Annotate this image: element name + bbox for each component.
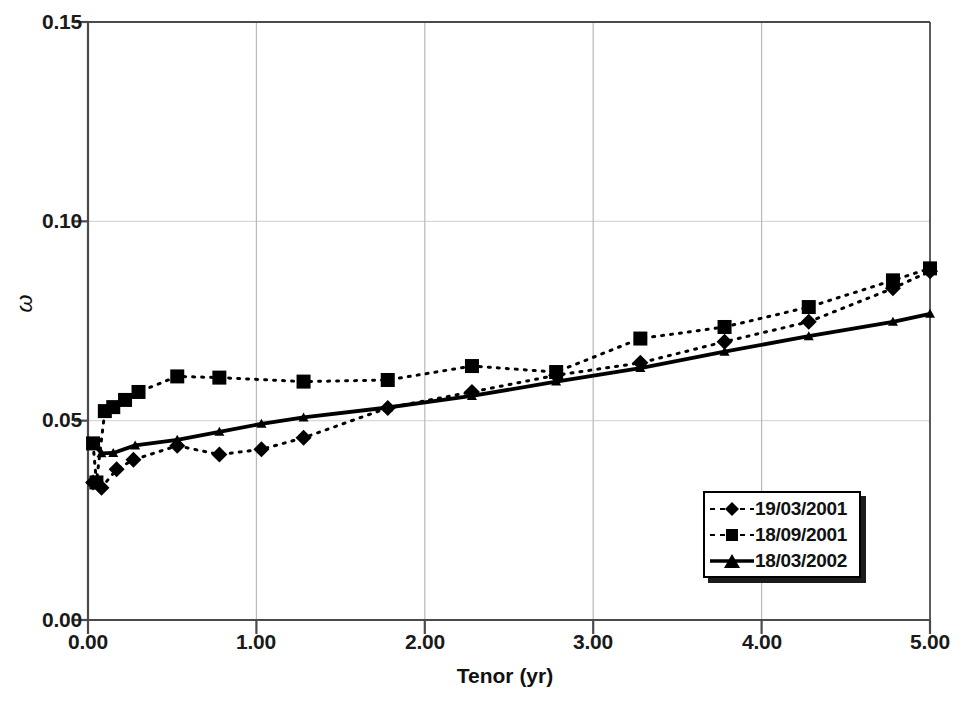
x-axis-title: Tenor (yr) bbox=[0, 664, 965, 688]
data-point-square bbox=[718, 320, 732, 334]
data-point-diamond bbox=[125, 452, 141, 468]
x-tick-label-5: 5.00 bbox=[890, 630, 965, 654]
x-tick-label-4: 4.00 bbox=[722, 630, 802, 654]
data-point-diamond bbox=[801, 314, 817, 330]
data-point-square bbox=[886, 273, 900, 287]
diamond-marker bbox=[709, 498, 755, 520]
data-point-square bbox=[170, 369, 184, 383]
legend-label-2: 18/03/2002 bbox=[755, 550, 847, 572]
data-point-square bbox=[381, 373, 395, 387]
chart-figure: 0.15 0.10 0.05 0.00 0.00 1.00 2.00 3.00 … bbox=[0, 0, 965, 708]
x-tick-label-1: 1.00 bbox=[216, 630, 296, 654]
x-tick-label-0: 0.00 bbox=[48, 630, 128, 654]
x-tick-label-2: 2.00 bbox=[385, 630, 465, 654]
square-marker bbox=[709, 524, 755, 546]
legend-item-1: 18/09/2001 bbox=[709, 522, 855, 548]
y-tick-label-2: 0.10 bbox=[10, 209, 82, 233]
data-point-square bbox=[633, 332, 647, 346]
data-point-square bbox=[132, 385, 146, 399]
data-point-square bbox=[802, 300, 816, 314]
triangle-marker bbox=[709, 550, 755, 572]
data-point-square bbox=[297, 375, 311, 389]
data-point-square bbox=[465, 359, 479, 373]
vertical-gridlines bbox=[256, 22, 761, 620]
data-point-square bbox=[118, 393, 132, 407]
y-tick-label-1: 0.05 bbox=[10, 408, 82, 432]
legend-label-1: 18/09/2001 bbox=[755, 524, 847, 546]
plot-canvas bbox=[0, 0, 965, 708]
legend-item-0: 19/03/2001 bbox=[709, 496, 855, 522]
legend-item-2: 18/03/2002 bbox=[709, 548, 855, 574]
data-series-layer bbox=[85, 261, 938, 495]
x-tick-label-3: 3.00 bbox=[553, 630, 633, 654]
data-point-square bbox=[89, 475, 103, 489]
y-tick-label-0: 0.00 bbox=[10, 608, 82, 632]
data-point-square bbox=[212, 371, 226, 385]
legend-label-0: 19/03/2001 bbox=[755, 498, 847, 520]
data-point-diamond bbox=[211, 447, 227, 463]
chart-legend: 19/03/2001 18/09/2001 18/03/2002 bbox=[703, 491, 861, 578]
horizontal-gridlines bbox=[88, 22, 930, 421]
data-point-square bbox=[923, 261, 937, 275]
data-point-diamond bbox=[296, 430, 312, 446]
y-tick-label-3: 0.15 bbox=[10, 10, 82, 34]
y-axis-title: ω bbox=[11, 284, 38, 324]
